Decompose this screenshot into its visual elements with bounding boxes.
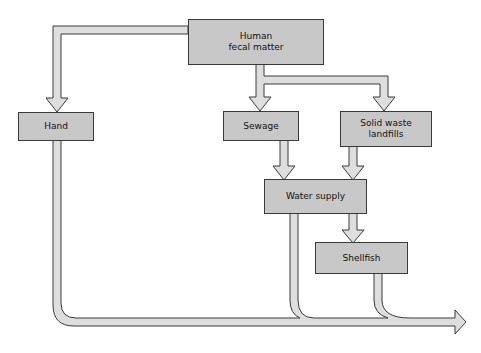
node-label: Water supply [286, 191, 345, 202]
node-water-supply: Water supply [264, 179, 367, 214]
arrow-landfill-to-water [342, 146, 364, 180]
node-label: Solid waste landfills [360, 118, 411, 140]
arrow-output-pipe [53, 140, 466, 334]
arrow-human-to-sewage [249, 64, 395, 111]
node-solid-waste-landfills: Solid waste landfills [340, 111, 432, 147]
node-sewage: Sewage [223, 111, 299, 141]
node-shellfish: Shellfish [315, 242, 408, 274]
node-hand: Hand [18, 112, 94, 141]
node-label: Sewage [243, 121, 278, 132]
arrow-water-to-shellfish [342, 213, 364, 243]
arrow-human-to-hand [46, 26, 188, 112]
node-label: Hand [44, 121, 68, 132]
arrow-sewage-to-water [273, 140, 295, 180]
node-human-fecal-matter: Human fecal matter [188, 19, 324, 65]
node-label: Human fecal matter [228, 31, 283, 53]
node-label: Shellfish [342, 253, 380, 264]
